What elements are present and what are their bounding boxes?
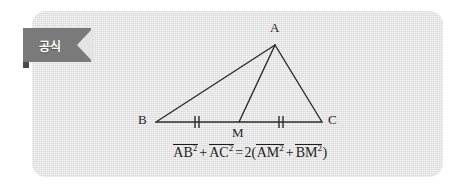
screenshot-root: A B C M 공식 AB2 + AC2 = 2 ( AM2 + BM2 ) [0,0,467,188]
ribbon-fold [23,62,29,68]
ribbon-label: 공식 [23,28,77,62]
term-AM: AM2 [256,145,284,161]
term-AC-text: AC [209,145,228,160]
formula-expression: AB2 + AC2 = 2 ( AM2 + BM2 ) [150,141,350,165]
term-AB-text: AB [173,145,192,160]
formula-ribbon: 공식 [23,28,93,63]
term-AC: AC2 [209,145,234,161]
term-BM-text: BM [296,145,318,160]
term-AM-exp: 2 [279,143,284,153]
close-paren: ) [322,145,327,161]
op-plus-1: + [198,145,209,161]
term-BM: BM2 [295,145,322,161]
op-equals: = [234,145,245,161]
op-plus-2: + [284,145,295,161]
term-AC-exp: 2 [229,143,234,153]
term-BM-exp: 2 [317,143,322,153]
term-AM-text: AM [257,145,280,160]
term-AB-exp: 2 [193,143,198,153]
term-AB: AB2 [173,145,198,161]
coefficient-2: 2 [245,145,252,161]
